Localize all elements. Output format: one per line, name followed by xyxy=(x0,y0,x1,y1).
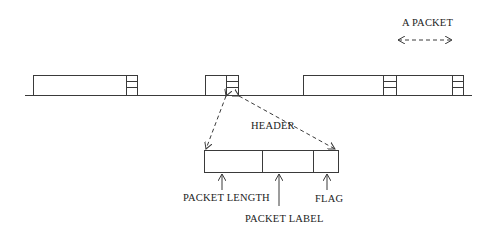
packet-2 xyxy=(206,76,239,96)
header-expand-arrow-left-icon xyxy=(206,96,226,149)
a-packet-label: A PACKET xyxy=(402,17,453,28)
packet-length-label: PACKET LENGTH xyxy=(183,192,270,203)
packet-structure-diagram: A PACKET HEADER xyxy=(0,0,495,235)
packet-1 xyxy=(34,76,139,96)
header-label: HEADER xyxy=(251,120,295,131)
packet-label-label: PACKET LABEL xyxy=(245,213,324,224)
flag-label: FLAG xyxy=(315,193,343,204)
packet-3 xyxy=(304,76,464,96)
header-fields-box xyxy=(205,151,339,173)
